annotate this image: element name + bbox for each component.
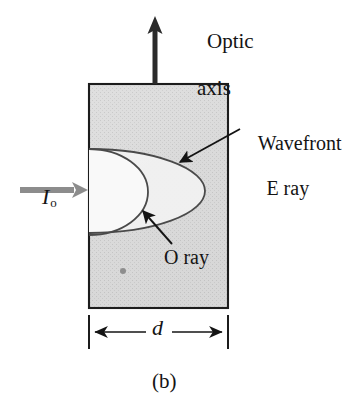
- figure-caption: (b): [152, 370, 177, 394]
- o-ray-label: O ray: [164, 246, 209, 268]
- optics-figure-birefringent-crystal: Optic axis Wavefront E ray O ray Io d (b…: [0, 0, 344, 408]
- incident-intensity-label: Io: [20, 160, 56, 234]
- wavefront-e-ray-label: Wavefront E ray: [238, 110, 342, 244]
- thickness-label: d: [152, 316, 163, 341]
- optic-axis-label-line2: axis: [186, 77, 254, 101]
- optic-axis-label-line1: Optic: [207, 29, 254, 53]
- wavefront-label-line1: Wavefront: [258, 132, 342, 154]
- incident-intensity-symbol: I: [42, 184, 49, 209]
- optic-axis-arrow: [148, 16, 163, 84]
- wavefront-label-line2: E ray: [238, 177, 342, 199]
- incident-intensity-subscript: o: [50, 195, 57, 210]
- point-source-dot: [120, 268, 126, 274]
